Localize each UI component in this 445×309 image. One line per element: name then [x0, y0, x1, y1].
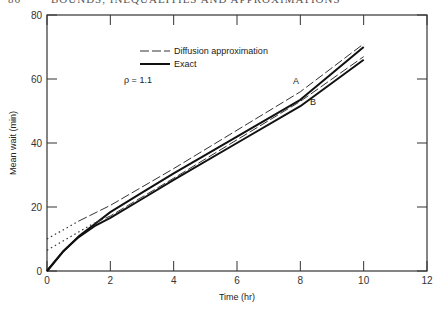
y-tick-label: 80	[31, 10, 43, 21]
diffusion-b-extrapolation-line	[47, 223, 95, 250]
x-tick-label: 10	[358, 275, 370, 286]
curve-label-a: A	[293, 76, 299, 86]
y-tick-label: 60	[31, 74, 43, 85]
x-tick-label: 0	[44, 275, 50, 286]
exact-b-line	[47, 60, 364, 271]
x-tick-label: 4	[171, 275, 177, 286]
curve-label-b: B	[310, 97, 316, 107]
mean-wait-chart: 024681012020406080Time (hr)Mean wait (mi…	[0, 0, 445, 309]
y-axis-label: Mean wait (min)	[8, 111, 18, 175]
x-tick-label: 2	[108, 275, 114, 286]
x-tick-label: 8	[298, 275, 304, 286]
x-tick-label: 6	[234, 275, 240, 286]
rho-annotation: ρ = 1.1	[124, 75, 152, 85]
y-tick-label: 0	[36, 266, 42, 277]
diffusion-a-line	[79, 44, 364, 221]
legend-diffusion-label: Diffusion approximation	[174, 46, 268, 56]
y-tick-label: 40	[31, 138, 43, 149]
y-tick-label: 20	[31, 202, 43, 213]
x-axis-label: Time (hr)	[219, 292, 255, 302]
legend-exact-label: Exact	[174, 59, 197, 69]
x-tick-label: 12	[421, 275, 433, 286]
diffusion-a-extrapolation-line	[47, 221, 79, 239]
